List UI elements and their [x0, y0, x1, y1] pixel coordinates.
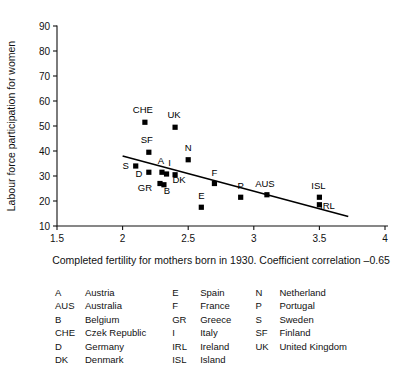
legend-country-name: Portugal: [279, 300, 347, 314]
y-axis-tick-label: 40: [39, 146, 51, 157]
legend-country-code: P: [255, 300, 279, 314]
legend-country-code: A: [55, 286, 85, 300]
data-point-marker: [172, 125, 177, 130]
legend-country-code: N: [255, 286, 279, 300]
data-point-marker: [186, 157, 191, 162]
legend-country-name: Spain: [200, 286, 231, 300]
legend-column-1: AAustriaAUSAustraliaBBelgiumCHECzek Repu…: [55, 286, 172, 368]
legend-country-name: Netherland: [279, 286, 347, 300]
legend-country-code: UK: [255, 340, 279, 354]
legend-row: FFrance: [172, 300, 231, 314]
legend-country-name: Australia: [85, 300, 146, 314]
chart-svg: 1020304050607080901.522.533.54Labour for…: [0, 0, 402, 282]
legend-country-code: S: [255, 313, 279, 327]
y-axis-tick-label: 80: [39, 46, 51, 57]
legend-country-name: Ireland: [200, 340, 231, 354]
legend-row: IRLIreland: [172, 340, 231, 354]
legend-country-name: Germany: [85, 340, 146, 354]
legend-row: NNetherland: [255, 286, 347, 300]
x-axis-tick-label: 1.5: [50, 233, 64, 244]
data-point-label: A: [158, 155, 165, 166]
legend-table: NNetherlandPPortugalSSwedenSFFinlandUKUn…: [255, 286, 347, 354]
data-point-label: F: [212, 167, 218, 178]
scatter-chart: 1020304050607080901.522.533.54Labour for…: [0, 0, 402, 282]
plot-axes: [57, 26, 388, 227]
legend-country-code: D: [55, 340, 85, 354]
data-point-label: GR: [138, 182, 152, 193]
legend-row: DKDenmark: [55, 354, 146, 368]
data-point-label: B: [164, 185, 170, 196]
legend-country-name: Austria: [85, 286, 146, 300]
legend-country-code: IRL: [172, 340, 200, 354]
legend-country-name: France: [200, 300, 231, 314]
data-point-label: UK: [167, 109, 181, 120]
legend-country-name: Sweden: [279, 313, 347, 327]
legend-table: AAustriaAUSAustraliaBBelgiumCHECzek Repu…: [55, 286, 146, 368]
legend-row: SSweden: [255, 313, 347, 327]
legend-country-name: Italy: [200, 327, 231, 341]
x-axis-tick-label: 4: [382, 233, 388, 244]
legend-country-code: AUS: [55, 300, 85, 314]
y-axis-tick-label: 30: [39, 171, 51, 182]
legend-country-name: United Kingdom: [279, 340, 347, 354]
legend-row: DGermany: [55, 340, 146, 354]
y-axis-tick-label: 90: [39, 21, 51, 32]
data-point-label: CHE: [133, 104, 153, 115]
legend-country-code: CHE: [55, 327, 85, 341]
legend-country-name: Belgium: [85, 313, 146, 327]
legend-row: UKUnited Kingdom: [255, 340, 347, 354]
data-point-marker: [238, 195, 243, 200]
legend-country-code: ISL: [172, 354, 200, 368]
y-axis-title: Labour force participation for women: [5, 41, 17, 212]
legend-country-code: GR: [172, 313, 200, 327]
y-axis-tick-label: 10: [39, 221, 51, 232]
legend-row: GRGreece: [172, 313, 231, 327]
legend-country-code: F: [172, 300, 200, 314]
data-point-label: AUS: [255, 178, 275, 189]
x-axis-tick-label: 3.5: [312, 233, 326, 244]
data-point-label: SF: [141, 134, 153, 145]
data-point-marker: [264, 192, 269, 197]
legend-row: IItaly: [172, 327, 231, 341]
y-axis-tick-label: 60: [39, 96, 51, 107]
legend-row: PPortugal: [255, 300, 347, 314]
data-point-marker: [164, 171, 169, 176]
data-point-label: S: [123, 160, 129, 171]
legend-country-name: Czek Republic: [85, 327, 146, 341]
data-point-marker: [146, 170, 151, 175]
data-point-label: P: [238, 180, 244, 191]
legend-row: BBelgium: [55, 313, 146, 327]
x-axis-title: Completed fertility for mothers born in …: [52, 254, 390, 266]
legend-country-name: Greece: [200, 313, 231, 327]
data-point-marker: [146, 150, 151, 155]
legend-country-name: Finland: [279, 327, 347, 341]
legend-country-code: B: [55, 313, 85, 327]
data-point-label: E: [198, 190, 204, 201]
data-point-label: I: [168, 157, 171, 168]
data-point-label: IRL: [320, 200, 335, 211]
data-point-marker: [142, 120, 147, 125]
x-axis-tick-label: 2: [120, 233, 126, 244]
y-axis-tick-label: 50: [39, 121, 51, 132]
legend-country-name: Island: [200, 354, 231, 368]
country-code-legend: AAustriaAUSAustraliaBBelgiumCHECzek Repu…: [0, 282, 402, 368]
data-point-marker: [199, 205, 204, 210]
legend-country-code: SF: [255, 327, 279, 341]
legend-country-code: I: [172, 327, 200, 341]
legend-country-code: E: [172, 286, 200, 300]
legend-row: ESpain: [172, 286, 231, 300]
legend-column-3: NNetherlandPPortugalSSwedenSFFinlandUKUn…: [255, 286, 347, 368]
legend-country-name: Denmark: [85, 354, 146, 368]
legend-column-2: ESpainFFranceGRGreeceIItalyIRLIrelandISL…: [172, 286, 255, 368]
y-axis-tick-label: 70: [39, 71, 51, 82]
legend-row: CHECzek Republic: [55, 327, 146, 341]
legend-table: ESpainFFranceGRGreeceIItalyIRLIrelandISL…: [172, 286, 231, 368]
x-axis-tick-label: 3: [251, 233, 257, 244]
data-point-label: N: [185, 142, 192, 153]
data-point-marker: [212, 181, 217, 186]
data-point-label: ISL: [311, 180, 325, 191]
y-axis-tick-label: 20: [39, 196, 51, 207]
data-point-label: DK: [172, 174, 186, 185]
x-axis-tick-label: 2.5: [181, 233, 195, 244]
legend-country-code: DK: [55, 354, 85, 368]
